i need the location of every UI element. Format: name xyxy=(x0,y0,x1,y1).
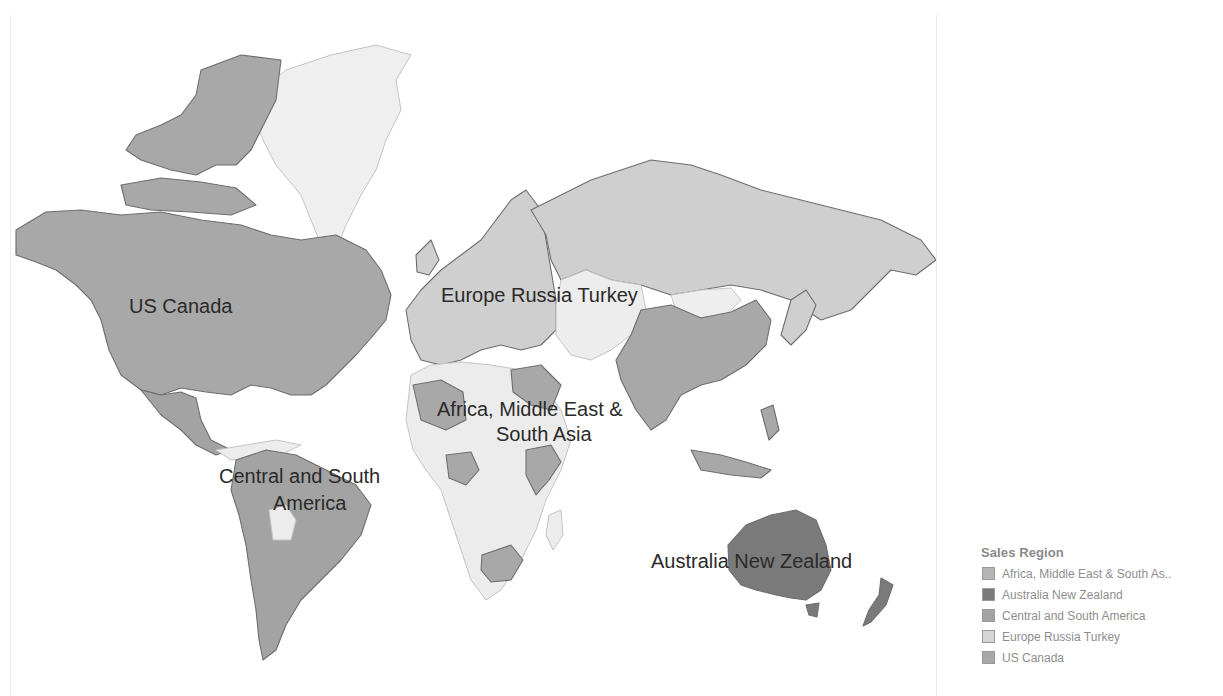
map-label-africa-me-sa: Africa, Middle East & xyxy=(437,398,623,420)
legend-swatch xyxy=(982,588,995,601)
map-view[interactable]: US Canada Europe Russia Turkey Africa, M… xyxy=(10,15,937,696)
legend-label: Central and South America xyxy=(1002,609,1145,623)
map-label-central-south-america: Central and South xyxy=(219,465,380,487)
world-map[interactable] xyxy=(10,15,937,696)
legend-swatch xyxy=(982,567,995,580)
map-label-us-canada: US Canada xyxy=(129,295,232,317)
legend-item-europe-russia-turkey[interactable]: Europe Russia Turkey xyxy=(978,626,1223,647)
legend-sales-region: Sales Region Africa, Middle East & South… xyxy=(978,545,1223,668)
map-label-australia-nz: Australia New Zealand xyxy=(651,550,852,572)
map-label-europe-russia-turkey: Europe Russia Turkey xyxy=(441,284,638,306)
region-canada-arctic[interactable] xyxy=(126,55,281,175)
legend-label: Europe Russia Turkey xyxy=(1002,630,1120,644)
region-europe[interactable] xyxy=(406,190,556,365)
legend-label: US Canada xyxy=(1002,651,1064,665)
legend-swatch xyxy=(982,609,995,622)
legend-swatch xyxy=(982,630,995,643)
legend-item-australia-nz[interactable]: Australia New Zealand xyxy=(978,584,1223,605)
map-label-central-south-america-line2: America xyxy=(273,492,346,514)
map-label-africa-me-sa-line2: South Asia xyxy=(496,423,592,445)
legend-title: Sales Region xyxy=(981,545,1223,560)
legend-label: Africa, Middle East & South As.. xyxy=(1002,567,1171,581)
legend-item-africa-me-sa[interactable]: Africa, Middle East & South As.. xyxy=(978,563,1223,584)
region-new-zealand[interactable] xyxy=(863,578,893,626)
region-central-america[interactable] xyxy=(141,390,231,455)
legend-item-us-canada[interactable]: US Canada xyxy=(978,647,1223,668)
legend-swatch xyxy=(982,651,995,664)
legend-label: Australia New Zealand xyxy=(1002,588,1123,602)
region-asia[interactable] xyxy=(616,300,771,430)
legend-item-central-south-america[interactable]: Central and South America xyxy=(978,605,1223,626)
